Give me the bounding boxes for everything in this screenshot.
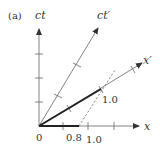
panel-label: (a) [8, 10, 22, 21]
x-prime-axis-label: x′ [143, 54, 152, 67]
x-tick-label-1-0: 1.0 [86, 134, 102, 145]
ct-prime-axis [39, 28, 98, 126]
x-axis [39, 122, 139, 130]
ct-axis-label: ct [35, 9, 46, 22]
ct-prime-axis-label: ct′ [97, 9, 111, 22]
ct-axis [35, 29, 43, 126]
x-tick-label-0-8: 0.8 [66, 132, 82, 143]
x-prime-thick-segment [39, 89, 101, 126]
x-axis-label: x [144, 120, 151, 133]
spacetime-diagram: (a) ct ct′ x′ x 0 0.8 1.0 1.0 [0, 0, 162, 147]
x-prime-tick-label-1-0: 1.0 [102, 94, 118, 105]
origin-label: 0 [36, 132, 42, 143]
